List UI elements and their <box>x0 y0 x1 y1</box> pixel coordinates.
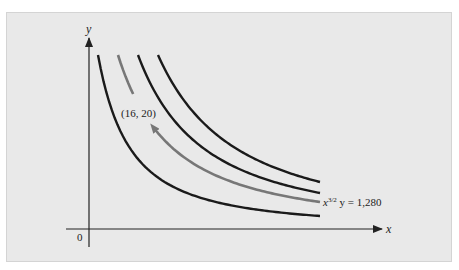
equation-label: x3/2 y = 1,280 <box>322 196 382 208</box>
level-curve-3 <box>138 55 320 193</box>
origin-label: 0 <box>77 231 83 243</box>
point-label: (16, 20) <box>121 107 156 120</box>
highlighted-curve-upper <box>118 55 133 94</box>
y-axis-label: y <box>85 22 92 36</box>
level-curve-4 <box>158 55 320 182</box>
level-curve-1 <box>98 55 320 216</box>
highlighted-curve-arrow <box>153 127 320 202</box>
x-axis-label: x <box>385 222 392 236</box>
equation-rest: y = 1,280 <box>337 196 382 208</box>
chart: x y 0 (16, 20) x3/2 y = 1,280 <box>0 0 459 270</box>
